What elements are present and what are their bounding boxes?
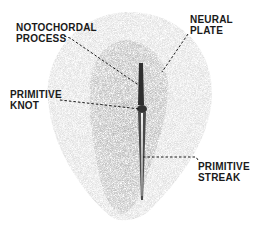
label-line: KNOT bbox=[10, 100, 62, 111]
label-line: STREAK bbox=[198, 172, 250, 183]
label-neural-plate: NEURAL PLATE bbox=[190, 14, 233, 36]
label-line: NEURAL bbox=[190, 14, 233, 25]
label-line: PROCESS bbox=[16, 33, 97, 44]
label-line: PLATE bbox=[190, 25, 233, 36]
label-line: NOTOCHORDAL bbox=[16, 22, 97, 33]
label-line: PRIMITIVE bbox=[198, 161, 250, 172]
label-line: PRIMITIVE bbox=[10, 89, 62, 100]
label-notochordal-process: NOTOCHORDAL PROCESS bbox=[16, 22, 97, 44]
primitive-knot bbox=[137, 105, 147, 113]
label-primitive-streak: PRIMITIVE STREAK bbox=[198, 161, 250, 183]
notochordal-process bbox=[138, 63, 144, 105]
label-primitive-knot: PRIMITIVE KNOT bbox=[10, 89, 62, 111]
